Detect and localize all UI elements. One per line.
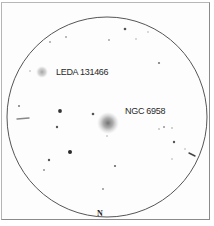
star-icon <box>48 159 50 161</box>
star-icon <box>171 158 173 160</box>
star-icon <box>92 113 95 116</box>
star-icon <box>163 126 165 128</box>
star-icon <box>158 62 160 64</box>
label-leda-131466: LEDA 131466 <box>56 67 108 77</box>
star-icon <box>29 70 31 72</box>
galaxy-leda-131466-icon <box>36 66 48 78</box>
star-icon <box>58 109 62 113</box>
star-icon <box>124 28 127 31</box>
star-icon <box>147 31 149 33</box>
star-icon <box>18 105 20 107</box>
star-icon <box>114 165 116 167</box>
star-icon <box>184 148 186 150</box>
star-icon <box>56 126 58 128</box>
star-icon <box>65 36 67 38</box>
label-ngc-6958: NGC 6958 <box>125 106 165 116</box>
star-streak-icon <box>189 153 195 156</box>
star-icon <box>43 169 45 171</box>
star-icon <box>108 39 110 41</box>
star-streak-icon <box>17 118 29 119</box>
star-icon <box>173 141 175 143</box>
star-icon <box>106 135 108 137</box>
star-icon <box>49 41 51 43</box>
star-icon <box>102 188 104 190</box>
star-icon <box>171 127 173 129</box>
galaxy-ngc-6958-icon <box>97 112 119 134</box>
north-orientation-label: N <box>97 209 103 218</box>
star-icon <box>135 38 137 40</box>
finder-chart <box>0 0 214 226</box>
star-icon <box>68 150 72 154</box>
star-icon <box>158 128 160 130</box>
